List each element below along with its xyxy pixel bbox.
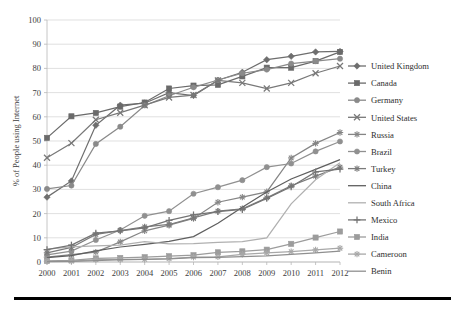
legend-label: Brazil bbox=[371, 147, 393, 157]
legend-label: United States bbox=[371, 113, 418, 123]
y-tick-label: 0 bbox=[37, 257, 41, 267]
x-tick-label: 2005 bbox=[161, 268, 178, 278]
legend-label: Germany bbox=[371, 95, 404, 105]
y-tick-label: 20 bbox=[33, 209, 42, 219]
data-point-marker bbox=[191, 85, 196, 90]
data-point-marker bbox=[313, 59, 318, 64]
data-point-marker bbox=[354, 98, 359, 103]
y-tick-label: 90 bbox=[33, 39, 42, 49]
data-point-marker bbox=[44, 135, 49, 140]
data-point-marker bbox=[166, 209, 171, 214]
data-point-marker bbox=[118, 104, 123, 109]
bottom-divider-rule bbox=[14, 297, 451, 300]
data-point-marker bbox=[264, 165, 269, 170]
data-point-marker bbox=[354, 81, 359, 86]
internet-usage-line-chart: 0102030405060708090100 20002001200220032… bbox=[0, 0, 465, 311]
data-point-marker bbox=[289, 161, 294, 166]
y-tick-label: 10 bbox=[33, 233, 42, 243]
legend-label: United Kingdom bbox=[371, 61, 429, 71]
data-point-marker bbox=[289, 241, 294, 246]
x-tick-label: 2008 bbox=[234, 268, 251, 278]
data-point-marker bbox=[69, 114, 74, 119]
data-point-marker bbox=[354, 149, 359, 154]
legend-label: Russia bbox=[371, 130, 394, 140]
y-tick-label: 70 bbox=[33, 88, 42, 98]
x-tick-label: 2010 bbox=[283, 268, 300, 278]
legend-label: China bbox=[371, 181, 392, 191]
x-tick-label: 2012 bbox=[332, 268, 349, 278]
data-point-marker bbox=[337, 49, 342, 54]
data-point-marker bbox=[240, 178, 245, 183]
legend-label: Mexico bbox=[371, 215, 397, 225]
data-point-marker bbox=[313, 149, 318, 154]
legend-label: Canada bbox=[371, 78, 397, 88]
data-point-marker bbox=[337, 229, 342, 234]
chart-figure: 0102030405060708090100 20002001200220032… bbox=[0, 0, 465, 311]
x-tick-label: 2009 bbox=[258, 268, 275, 278]
data-point-marker bbox=[93, 237, 98, 242]
legend-label: Benin bbox=[371, 266, 392, 276]
x-tick-label: 2001 bbox=[63, 268, 80, 278]
y-axis-title: % of People using Internet bbox=[11, 95, 21, 186]
data-point-marker bbox=[118, 124, 123, 129]
x-tick-label: 2000 bbox=[39, 268, 56, 278]
x-tick-label: 2003 bbox=[112, 268, 129, 278]
data-point-marker bbox=[354, 234, 359, 239]
data-point-marker bbox=[264, 67, 269, 72]
x-tick-label: 2006 bbox=[185, 268, 202, 278]
legend-label: Cameroon bbox=[371, 249, 408, 259]
data-point-marker bbox=[93, 110, 98, 115]
legend-label: Turkey bbox=[371, 164, 396, 174]
legend-label: South Africa bbox=[371, 198, 415, 208]
data-point-marker bbox=[215, 185, 220, 190]
data-point-marker bbox=[240, 71, 245, 76]
x-tick-label: 2002 bbox=[87, 268, 104, 278]
legend-label: India bbox=[371, 232, 389, 242]
data-point-marker bbox=[313, 235, 318, 240]
data-point-marker bbox=[191, 191, 196, 196]
x-tick-label: 2011 bbox=[307, 268, 324, 278]
y-tick-label: 50 bbox=[33, 136, 42, 146]
y-tick-label: 100 bbox=[28, 15, 41, 25]
data-point-marker bbox=[142, 213, 147, 218]
data-point-marker bbox=[337, 139, 342, 144]
data-point-marker bbox=[337, 56, 342, 61]
x-tick-label: 2007 bbox=[209, 268, 226, 278]
y-tick-label: 80 bbox=[33, 63, 42, 73]
data-point-marker bbox=[289, 61, 294, 66]
data-point-marker bbox=[93, 141, 98, 146]
y-axis-title-text: % of People using Internet bbox=[11, 95, 21, 186]
x-tick-label: 2004 bbox=[136, 268, 154, 278]
y-tick-label: 40 bbox=[33, 160, 42, 170]
y-tick-label: 30 bbox=[33, 184, 42, 194]
chart-background bbox=[0, 0, 465, 311]
y-tick-label: 60 bbox=[33, 112, 42, 122]
data-point-marker bbox=[166, 86, 171, 91]
data-point-marker bbox=[44, 186, 49, 191]
data-point-marker bbox=[69, 183, 74, 188]
